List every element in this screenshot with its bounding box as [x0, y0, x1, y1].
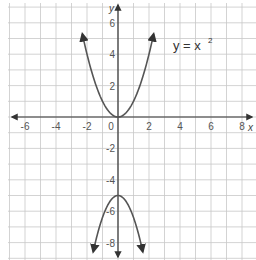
y-tick-label: -6: [106, 206, 115, 217]
y-axis-label: y: [108, 3, 115, 14]
x-tick-label: -2: [83, 121, 92, 132]
y-tick-label: -4: [106, 175, 115, 186]
x-tick-label: -6: [21, 121, 30, 132]
equation-superscript: 2: [208, 36, 213, 45]
y-tick-label: -2: [106, 143, 115, 154]
grid: [8, 3, 256, 260]
x-tick-label: -4: [52, 121, 61, 132]
y-tick-label: 2: [109, 81, 115, 92]
y-tick-label: 4: [109, 49, 115, 60]
x-tick-label: 6: [208, 121, 214, 132]
x-tick-label: 2: [146, 121, 152, 132]
x-tick-label: 8: [239, 121, 245, 132]
chart: -6-4-202468-8-6-4-2246 x y y = x 2: [0, 0, 256, 260]
x-tick-label: 4: [177, 121, 183, 132]
x-axis-label: x: [247, 122, 254, 133]
equation-text: y = x: [173, 38, 201, 53]
axes: [12, 5, 252, 257]
x-tick-label: 0: [108, 121, 114, 132]
y-tick-label: 6: [109, 18, 115, 29]
y-tick-label: -8: [106, 238, 115, 249]
